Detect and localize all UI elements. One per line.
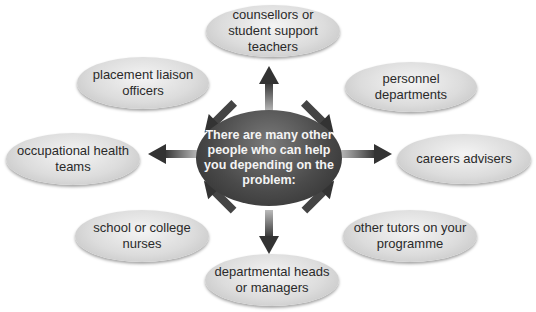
node-text: placement liaison officers <box>85 67 201 99</box>
arrow-down-icon <box>259 210 279 254</box>
node-placement: placement liaison officers <box>77 57 209 109</box>
node-counsellors: counsellors or student support teachers <box>206 5 340 57</box>
center-node: There are many other people who can help… <box>196 110 342 206</box>
node-nurses: school or college nurses <box>75 210 209 262</box>
center-text: There are many other people who can help… <box>204 128 334 188</box>
node-careers: careers advisers <box>397 134 531 184</box>
node-text: occupational health teams <box>14 143 132 175</box>
node-text: other tutors on your programme <box>351 220 469 252</box>
arrow-right-icon <box>340 144 392 164</box>
node-text: school or college nurses <box>83 220 201 252</box>
arrow-left-icon <box>148 144 198 164</box>
node-text: careers advisers <box>416 151 511 167</box>
node-text: departmental heads or managers <box>213 264 331 296</box>
diagram: There are many other people who can help… <box>0 0 536 312</box>
arrow-up-icon <box>259 66 279 112</box>
node-personnel: personnel departments <box>345 62 477 112</box>
node-occupational: occupational health teams <box>6 133 140 185</box>
node-text: personnel departments <box>353 71 469 103</box>
node-tutors: other tutors on your programme <box>343 210 477 262</box>
node-text: counsellors or student support teachers <box>214 7 332 55</box>
node-departmental: departmental heads or managers <box>205 254 339 306</box>
